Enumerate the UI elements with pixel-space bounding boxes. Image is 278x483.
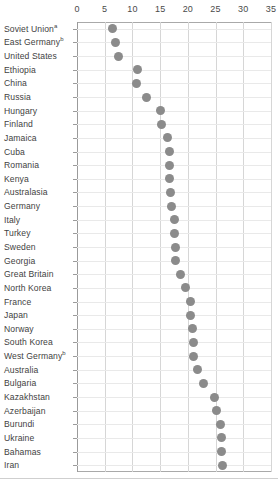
category-axis-labels: Soviet UnionaEast GermanybUnited StatesE… [0,22,74,472]
category-label: Hungary [0,106,70,116]
category-tick-mark [73,438,77,439]
data-point [171,256,180,265]
category-label: Soviet Uniona [0,24,70,34]
category-tick-mark [73,329,77,330]
data-point [114,52,123,61]
row-gridline [77,83,271,84]
category-label: Georgia [0,256,70,266]
row-gridline [77,56,271,57]
category-label: Great Britain [0,269,70,279]
axis-bottom-line [77,471,271,472]
category-tick-mark [73,247,77,248]
category-label: Sweden [0,242,70,252]
category-tick-mark [73,192,77,193]
category-tick-mark [73,411,77,412]
data-point [165,147,174,156]
category-label: Australasia [0,187,70,197]
category-label: North Korea [0,283,70,293]
data-point [111,38,120,47]
data-point [188,324,197,333]
data-point [217,433,226,442]
row-gridline [77,97,271,98]
x-tick-label: 20 [183,4,193,14]
data-point [142,93,151,102]
category-label: South Korea [0,337,70,347]
category-label: Burundi [0,419,70,429]
data-point [157,120,166,129]
category-tick-mark [73,288,77,289]
row-gridline [77,370,271,371]
category-tick-mark [73,124,77,125]
category-label: United States [0,51,70,61]
row-gridline [77,111,271,112]
category-tick-mark [73,138,77,139]
category-tick-mark [73,70,77,71]
x-tick-label: 25 [210,4,220,14]
category-label: China [0,78,70,88]
category-label: Kazakhstan [0,392,70,402]
category-label: Australia [0,365,70,375]
data-point [189,352,198,361]
category-label: Turkey [0,228,70,238]
data-point [186,311,195,320]
data-point [167,202,176,211]
category-tick-mark [73,356,77,357]
category-label: Japan [0,310,70,320]
category-tick-mark [73,370,77,371]
category-tick-mark [73,111,77,112]
category-label: Bulgaria [0,378,70,388]
row-gridline [77,70,271,71]
data-point [186,297,195,306]
data-point [170,229,179,238]
data-point [132,79,141,88]
x-gridline [271,22,272,472]
row-gridline [77,465,271,466]
category-label: Germany [0,201,70,211]
footnote-marker: a [54,23,57,29]
row-gridline [77,138,271,139]
category-tick-mark [73,302,77,303]
row-gridline [77,179,271,180]
category-tick-mark [73,342,77,343]
category-tick-mark [73,206,77,207]
x-tick-label: 15 [155,4,165,14]
category-label: Iran [0,460,70,470]
category-label: East Germanyb [0,37,70,47]
category-tick-mark [73,42,77,43]
row-gridline [77,315,271,316]
axis-top-line [77,22,271,23]
data-point [156,106,165,115]
category-label: Norway [0,324,70,334]
category-label: Bahamas [0,447,70,457]
data-point [163,133,172,142]
category-tick-mark [73,397,77,398]
category-tick-mark [73,424,77,425]
category-tick-mark [73,383,77,384]
row-gridline [77,452,271,453]
category-tick-mark [73,83,77,84]
category-label: Italy [0,215,70,225]
data-point [216,420,225,429]
data-point [165,174,174,183]
row-gridline [77,274,271,275]
x-tick-label: 0 [74,4,79,14]
category-tick-mark [73,179,77,180]
row-gridline [77,342,271,343]
category-label: Finland [0,119,70,129]
category-tick-mark [73,29,77,30]
bottom-rule [0,478,278,479]
category-label: Jamaica [0,133,70,143]
category-tick-mark [73,261,77,262]
row-gridline [77,152,271,153]
row-gridline [77,302,271,303]
row-gridline [77,424,271,425]
data-point [193,365,202,374]
row-gridline [77,356,271,357]
x-tick-label: 10 [127,4,137,14]
data-point [218,461,227,470]
row-gridline [77,397,271,398]
category-label: West Germanyb [0,351,70,361]
category-label: Ethiopia [0,65,70,75]
data-point [171,243,180,252]
category-label: Cuba [0,147,70,157]
